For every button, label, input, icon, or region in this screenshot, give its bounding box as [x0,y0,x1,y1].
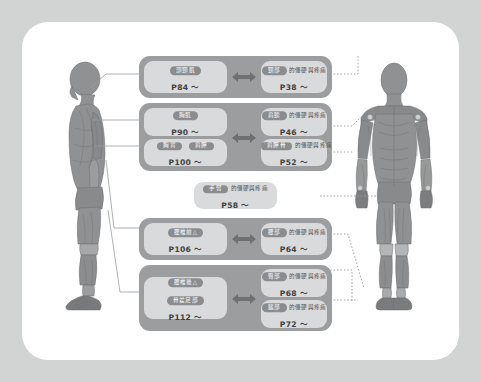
muscle-badge: 頭頸肌 [170,66,201,75]
muscle-badge-2: 肩胛 [189,142,214,151]
muscle-badge: 腰椎前△ [168,228,204,237]
page-ref: P106 ～ [144,243,227,254]
page-ref: P68 ～ [261,287,327,298]
muscle-badge: 胸肌 [173,111,198,120]
badge-row: 腿部的僵硬與疼痛 [261,299,327,315]
group-lumbar: 腰椎前△ P106 ～ 腰部的僵硬與疼痛 P64 ～ [139,218,332,260]
muscle-badge-2: 骨盆足部 [167,296,205,305]
card-lumbar-posterior-pelvis-muscle[interactable]: 腰椎後△ 骨盆足部 P112 ～ [144,277,227,319]
badge-row: 臀部的僵硬與疼痛 [261,268,327,284]
badge-row: 腰椎前△ [144,224,227,240]
page-ref: P100 ～ [144,156,227,167]
badge-row: 手臂的僵硬與疼痛 [194,181,277,197]
page-ref: P84 ～ [144,81,227,92]
region-badge: 腰部 [262,228,287,237]
badge-row: 肩膀的僵硬與疼痛 [261,107,327,123]
diagram-canvas: 頭頸肌 P84 ～ 頸部的僵硬與疼痛 P38 ～ 胸肌 [0,0,481,382]
muscle-badge-1: 腰椎後△ [168,278,204,287]
muscle-badge-1: 胸背 [157,142,182,151]
badge-row-2: 骨盆足部 [144,292,227,308]
card-lumbar-symptom[interactable]: 腰部的僵硬與疼痛 P64 ～ [261,223,327,255]
page-ref: P46 ～ [261,126,327,137]
region-badge: 肩胛骨 [261,142,292,151]
page-ref: P58 ～ [194,199,277,210]
symptom-suffix: 的僵硬與疼痛 [289,230,326,236]
card-leg-symptom[interactable]: 腿部的僵硬與疼痛 P72 ～ [261,300,327,328]
region-badge: 肩膀 [262,111,287,120]
badge-row-1: 腰椎後△ [144,274,227,290]
bidirectional-arrow-icon [232,291,256,305]
group-hip-leg: 腰椎後△ 骨盆足部 P112 ～ 臀部的僵硬與疼痛 P68 ～ [139,265,332,331]
symptom-suffix: 的僵硬與疼痛 [289,274,326,280]
page-ref: P52 ～ [261,156,327,167]
group-neck: 頭頸肌 P84 ～ 頸部的僵硬與疼痛 P38 ～ [139,56,332,98]
page-ref: P72 ～ [261,318,327,329]
region-badge: 頸部 [262,66,287,75]
region-badge: 手臂 [203,185,228,194]
page-ref: P112 ～ [144,311,227,322]
badge-row: 胸背肩胛 [144,138,227,154]
symptom-suffix: 的僵硬與疼痛 [231,186,268,192]
badge-row: 腰部的僵硬與疼痛 [261,224,327,240]
badge-row: 頸部的僵硬與疼痛 [261,62,327,78]
card-hip-symptom[interactable]: 臀部的僵硬與疼痛 P68 ～ [261,269,327,297]
card-back-scapula-muscle[interactable]: 胸背肩胛 P100 ～ [144,139,227,166]
symptom-suffix: 的僵硬與疼痛 [289,68,326,74]
badge-row: 胸肌 [144,107,227,123]
badge-row: 肩胛骨的僵硬與疼痛 [261,138,327,154]
symptom-suffix: 的僵硬與疼痛 [289,113,326,119]
group-shoulder: 胸肌 P90 ～ 胸背肩胛 P100 ～ 肩膀的僵硬與疼痛 [139,103,332,171]
card-shoulder-symptom[interactable]: 肩膀的僵硬與疼痛 P46 ～ [261,108,327,136]
bidirectional-arrow-icon [232,69,256,83]
card-neck-symptom[interactable]: 頸部的僵硬與疼痛 P38 ～ [261,61,327,93]
badge-row: 頭頸肌 [144,62,227,78]
card-neck-muscle[interactable]: 頭頸肌 P84 ～ [144,61,227,93]
page-ref: P38 ～ [261,81,327,92]
bidirectional-arrow-icon [232,231,256,245]
page-ref: P90 ～ [144,126,227,137]
card-lumbar-anterior-muscle[interactable]: 腰椎前△ P106 ～ [144,223,227,255]
symptom-suffix: 的僵硬與疼痛 [289,305,326,311]
region-badge: 臀部 [262,272,287,281]
page-ref: P64 ～ [261,243,327,254]
card-chest-muscle[interactable]: 胸肌 P90 ～ [144,108,227,136]
region-badge: 腿部 [262,303,287,312]
symptom-suffix: 的僵硬與疼痛 [295,143,332,149]
card-arm-symptom[interactable]: 手臂的僵硬與疼痛 P58 ～ [194,182,277,209]
card-scapula-symptom[interactable]: 肩胛骨的僵硬與疼痛 P52 ～ [261,139,327,166]
bidirectional-arrow-icon [232,130,256,144]
